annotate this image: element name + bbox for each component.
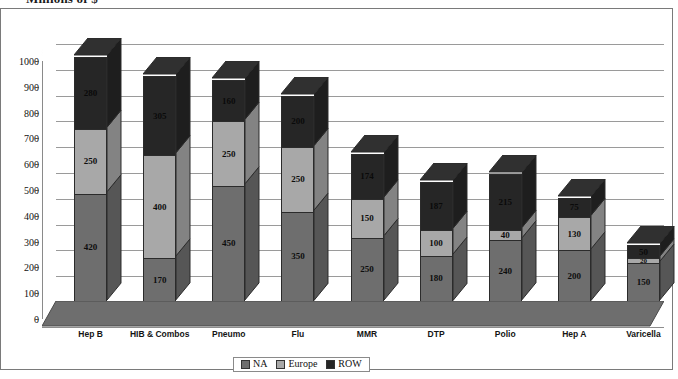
legend-label: ROW xyxy=(338,359,361,369)
bar-segment-row[interactable]: 280 xyxy=(74,57,107,129)
x-axis-line xyxy=(42,327,664,328)
bar-segment-row[interactable]: 187 xyxy=(420,182,453,230)
bar-segment-value: 174 xyxy=(360,172,374,181)
stacked-bar[interactable]: 280250420 xyxy=(74,57,107,302)
bar-segment-row[interactable]: 200 xyxy=(281,96,314,148)
legend-item[interactable]: Europe xyxy=(276,359,317,369)
bar-segment-value: 40 xyxy=(501,231,510,240)
bar-top-face xyxy=(627,226,676,245)
bar-segment-europe[interactable]: 40 xyxy=(489,230,522,240)
stacked-bar[interactable]: 174150250 xyxy=(351,154,384,302)
bar-top-face xyxy=(143,57,192,76)
y-axis-tick-mark xyxy=(35,61,39,62)
bar-segment-value: 250 xyxy=(291,175,305,184)
y-axis-ticks: 01002003004005006007008009001000 xyxy=(1,44,39,319)
bar-segment-value: 150 xyxy=(360,214,374,223)
legend-label: Europe xyxy=(288,359,317,369)
stacked-bar[interactable]: 75130200 xyxy=(558,198,591,302)
stacked-bar[interactable]: 305400170 xyxy=(143,76,176,302)
bar-side-faces xyxy=(522,155,538,302)
bar-segment-europe[interactable]: 250 xyxy=(281,147,314,212)
bar-segment-na[interactable]: 200 xyxy=(558,250,591,302)
bars-layer: 2802504203054001701602504502002503501741… xyxy=(42,44,664,319)
legend-swatch-icon xyxy=(326,360,335,369)
y-axis-tick-mark xyxy=(35,138,39,139)
bar-segment-value: 130 xyxy=(568,230,582,239)
bar-segment-value: 50 xyxy=(639,248,648,257)
legend-label: NA xyxy=(253,359,267,369)
x-axis-label: Pneumo xyxy=(194,329,263,339)
bar-segment-na[interactable]: 350 xyxy=(281,212,314,302)
bar-segment-na[interactable]: 450 xyxy=(212,186,245,302)
bar-segment-value: 450 xyxy=(222,239,236,248)
y-axis-tick-mark xyxy=(35,113,39,114)
stacked-bar[interactable]: 200250350 xyxy=(281,96,314,302)
bar-segment-row[interactable]: 75 xyxy=(558,198,591,217)
bar-segment-na[interactable]: 420 xyxy=(74,194,107,302)
legend-item[interactable]: ROW xyxy=(326,359,361,369)
bar-segment-row[interactable]: 50 xyxy=(627,245,660,258)
bar-side-faces xyxy=(314,77,330,302)
x-axis-label: MMR xyxy=(332,329,401,339)
stacked-bar[interactable]: 160250450 xyxy=(212,80,245,302)
bar-top-face xyxy=(281,77,330,96)
page-title: Millions of $ xyxy=(26,0,98,7)
y-axis-tick-mark xyxy=(35,242,39,243)
y-axis-tick-label: 800 xyxy=(3,107,39,118)
y-axis-tick-mark xyxy=(35,293,39,294)
bar-segment-value: 180 xyxy=(429,274,443,283)
y-axis-tick-label: 900 xyxy=(3,81,39,92)
stacked-bar[interactable]: 5020150 xyxy=(627,245,660,302)
bar-segment-value: 400 xyxy=(153,203,167,212)
bar-segment-na[interactable]: 170 xyxy=(143,258,176,302)
x-axis-label: Hep A xyxy=(540,329,609,339)
y-axis-tick-mark xyxy=(35,319,39,320)
bar-side-faces xyxy=(176,57,192,302)
bar-segment-na[interactable]: 250 xyxy=(351,238,384,303)
bar-segment-row[interactable]: 215 xyxy=(489,174,522,229)
bar-segment-europe[interactable]: 150 xyxy=(351,199,384,238)
bar-segment-value: 215 xyxy=(498,198,512,207)
y-axis-tick-label: 100 xyxy=(3,288,39,299)
y-axis-tick-mark xyxy=(35,216,39,217)
bar-segment-europe[interactable]: 250 xyxy=(74,129,107,194)
bar-segment-row[interactable]: 174 xyxy=(351,154,384,199)
bar-top-face xyxy=(420,163,469,182)
bar-segment-europe[interactable]: 130 xyxy=(558,217,591,251)
y-axis-tick-mark xyxy=(35,190,39,191)
bar-segment-value: 240 xyxy=(498,267,512,276)
bar-segment-na[interactable]: 180 xyxy=(420,256,453,302)
bar-segment-europe[interactable]: 400 xyxy=(143,155,176,258)
bar-side-faces xyxy=(384,135,400,302)
x-axis-label: HIB & Combos xyxy=(125,329,194,339)
bar-segment-value: 200 xyxy=(291,117,305,126)
bar-segment-row[interactable]: 305 xyxy=(143,76,176,155)
y-axis-tick-label: 300 xyxy=(3,236,39,247)
y-axis-tick-label: 600 xyxy=(3,159,39,170)
stacked-bar[interactable]: 187100180 xyxy=(420,182,453,302)
bar-segment-value: 75 xyxy=(570,203,579,212)
bar-segment-na[interactable]: 240 xyxy=(489,240,522,302)
bar-segment-europe[interactable]: 100 xyxy=(420,230,453,256)
bar-segment-row[interactable]: 160 xyxy=(212,80,245,121)
x-axis-label: Hep B xyxy=(56,329,125,339)
stacked-bar[interactable]: 21540240 xyxy=(489,174,522,302)
bar-segment-value: 150 xyxy=(637,278,651,287)
bar-segment-value: 350 xyxy=(291,252,305,261)
bar-segment-na[interactable]: 150 xyxy=(627,263,660,302)
bar-side-faces xyxy=(245,61,261,302)
bar-segment-value: 250 xyxy=(84,157,98,166)
bar-segment-europe[interactable]: 250 xyxy=(212,121,245,186)
chart-frame: 01002003004005006007008009001000 2802504… xyxy=(0,8,673,370)
legend-swatch-icon xyxy=(276,360,285,369)
bar-top-face xyxy=(212,61,261,80)
x-axis-label: DTP xyxy=(402,329,471,339)
y-axis-tick-mark xyxy=(35,87,39,88)
bar-segment-value: 420 xyxy=(84,243,98,252)
bar-top-face xyxy=(558,179,607,198)
bar-segment-value: 160 xyxy=(222,97,236,106)
legend-item[interactable]: NA xyxy=(241,359,267,369)
bar-segment-value: 170 xyxy=(153,276,167,285)
bar-side-faces xyxy=(107,38,123,302)
x-axis-labels: Hep BHIB & CombosPneumoFluMMRDTPPolioHep… xyxy=(42,329,664,345)
